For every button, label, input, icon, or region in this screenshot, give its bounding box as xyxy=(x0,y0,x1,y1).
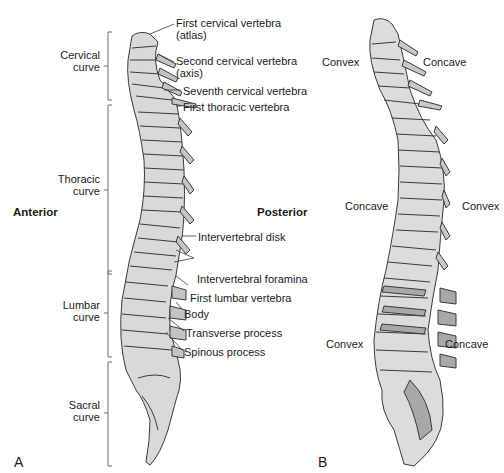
curve-label-line1: Thoracic xyxy=(40,173,100,185)
lumbar-curve-label: Lumbar curve xyxy=(40,299,100,323)
posterior-label: Posterior xyxy=(257,206,308,218)
callout-first-thoracic: First thoracic vertebra xyxy=(183,101,289,113)
callout-text: (axis) xyxy=(176,67,297,79)
spine-b xyxy=(370,19,456,466)
sacral-curve-label: Sacral curve xyxy=(40,399,100,423)
curve-brackets xyxy=(104,32,112,466)
callout-atlas: First cervical vertebra (atlas) xyxy=(176,17,281,41)
curve-label-line2: curve xyxy=(40,185,100,197)
callout-body: Body xyxy=(184,308,209,320)
spine-a xyxy=(121,32,196,465)
curve-label-line1: Sacral xyxy=(40,399,100,411)
thoracic-curve-label: Thoracic curve xyxy=(40,173,100,197)
curve-label-line2: curve xyxy=(40,411,100,423)
panel-b-letter: B xyxy=(318,456,327,468)
callout-text: Second cervical vertebra xyxy=(176,55,297,67)
panel-b-cervical-left: Convex xyxy=(322,56,359,68)
callout-seventh-cervical: Seventh cervical vertebra xyxy=(183,85,307,97)
callout-axis: Second cervical vertebra (axis) xyxy=(176,55,297,79)
curve-label-line2: curve xyxy=(40,311,100,323)
callout-intervertebral-disk: Intervertebral disk xyxy=(198,231,285,243)
callout-text: (atlas) xyxy=(176,29,281,41)
panel-b-thoracic-left: Concave xyxy=(345,200,388,212)
anterior-label: Anterior xyxy=(13,206,58,218)
curve-label-line1: Lumbar xyxy=(40,299,100,311)
panel-a-letter: A xyxy=(14,456,23,468)
curve-label-line2: curve xyxy=(40,61,100,73)
callout-transverse-process: Transverse process xyxy=(186,327,282,339)
panel-b-lumbar-right: Concave xyxy=(445,338,488,350)
panel-b-thoracic-right: Convex xyxy=(462,200,499,212)
callout-text: First cervical vertebra xyxy=(176,17,281,29)
panel-b-cervical-right: Concave xyxy=(423,56,466,68)
callout-intervertebral-foramina: Intervertebral foramina xyxy=(197,273,308,285)
callout-first-lumbar: First lumbar vertebra xyxy=(190,292,291,304)
callout-spinous-process: Spinous process xyxy=(184,346,265,358)
curve-label-line1: Cervical xyxy=(40,49,100,61)
panel-b-lumbar-left: Convex xyxy=(326,338,363,350)
cervical-curve-label: Cervical curve xyxy=(40,49,100,73)
